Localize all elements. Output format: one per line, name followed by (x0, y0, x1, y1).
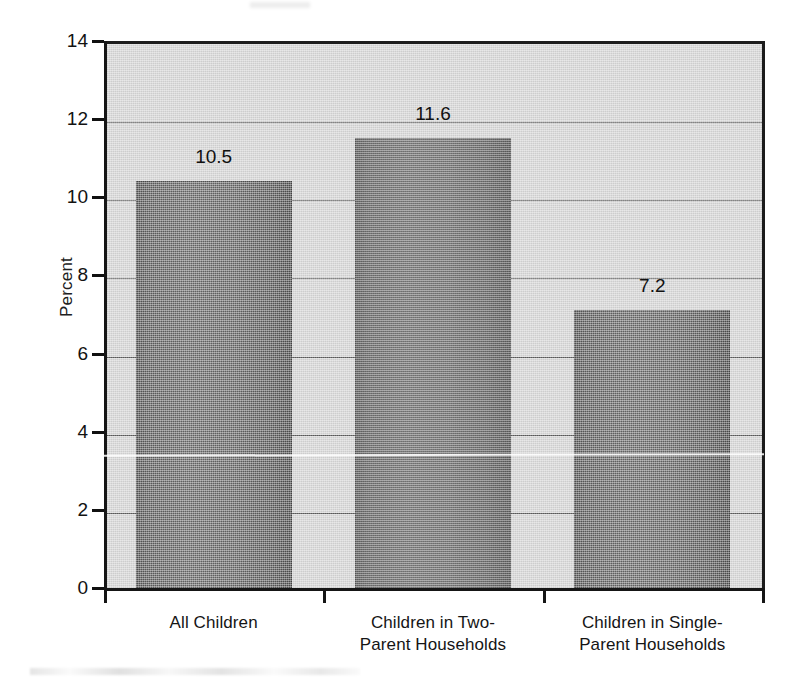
bar-value-label: 11.6 (383, 104, 483, 123)
bar (355, 138, 511, 591)
x-category-label: Children in Two-Parent Households (313, 612, 553, 656)
bar-chart-figure: Percent 02468101214 10.511.67.2 All Chil… (0, 0, 787, 680)
y-tick-label: 6 (54, 344, 88, 363)
bar (574, 310, 730, 591)
bar (136, 181, 292, 591)
y-axis-tick-labels: 02468101214 (54, 0, 88, 680)
y-tick-mark (92, 353, 104, 356)
bar-texture (574, 310, 730, 591)
y-tick-mark (92, 274, 104, 277)
y-tick-mark (92, 118, 104, 121)
y-axis-line (104, 41, 107, 601)
x-tick-mark (543, 588, 546, 603)
bar-texture (355, 138, 511, 591)
x-tick-mark (762, 588, 765, 603)
x-axis-line (104, 588, 762, 591)
bar-value-label: 7.2 (602, 276, 702, 295)
scan-artifact-top (250, 2, 310, 8)
y-tick-label: 2 (54, 500, 88, 519)
y-tick-label: 10 (54, 187, 88, 206)
x-category-label: All Children (94, 612, 334, 634)
y-tick-label: 14 (54, 31, 88, 50)
bar-value-label: 10.5 (164, 147, 264, 166)
y-tick-label: 12 (54, 109, 88, 128)
x-tick-mark (104, 588, 107, 603)
y-tick-mark (92, 196, 104, 199)
x-category-label: Children in Single-Parent Households (532, 612, 772, 656)
x-tick-mark (323, 588, 326, 603)
y-tick-label: 4 (54, 422, 88, 441)
y-tick-mark (92, 587, 104, 590)
y-tick-mark (92, 40, 104, 43)
y-tick-label: 0 (54, 578, 88, 597)
y-tick-mark (92, 509, 104, 512)
y-tick-label: 8 (54, 265, 88, 284)
bar-texture (136, 181, 292, 591)
y-tick-mark (92, 431, 104, 434)
